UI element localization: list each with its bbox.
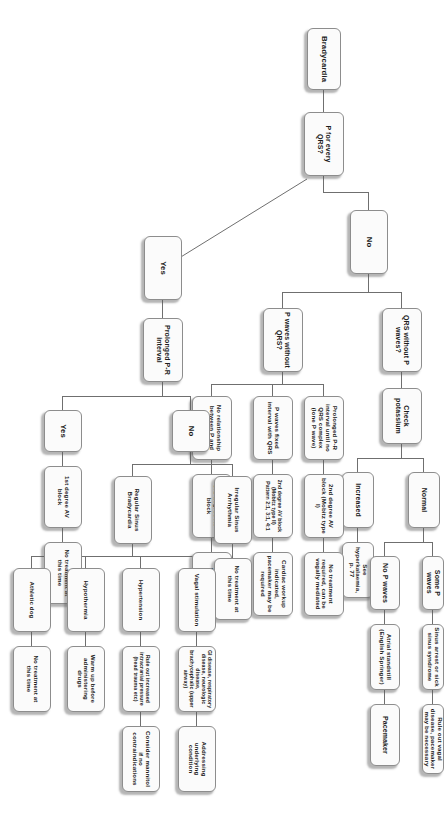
connector (63, 396, 191, 397)
connector (323, 176, 324, 192)
connector (132, 464, 133, 476)
node-1st-degree-av-block[interactable]: 1st degree AV block (44, 466, 82, 528)
connector (140, 712, 141, 726)
connector (62, 396, 63, 410)
node-hypertension[interactable]: Hypertension (122, 568, 160, 632)
node-2nd-degree-mobitz-i[interactable]: 2nd degree AV block (Mobitz type I) (304, 474, 344, 538)
node-regular-sinus-bradycardia[interactable]: Regular Sinus Bradycardia (114, 476, 152, 544)
connector (272, 538, 273, 552)
node-no-treatment-vagally-mediated[interactable]: No treatment required, can be vagally me… (304, 552, 344, 616)
node-prolonged-pr-until-no-qrs[interactable]: Prolonged P-R interval until no QRS comp… (304, 396, 344, 460)
connector (190, 396, 191, 410)
connector (323, 192, 369, 193)
connector (384, 542, 385, 556)
connector (211, 538, 212, 552)
connector (196, 632, 197, 646)
connector (432, 542, 433, 556)
connector (323, 90, 324, 112)
connector (140, 632, 141, 646)
connector (162, 300, 163, 318)
node-no-p-waves[interactable]: No P waves (370, 556, 400, 610)
connector (31, 632, 32, 646)
connector (384, 610, 385, 624)
connector (282, 372, 283, 384)
connector (282, 292, 283, 308)
node-rule-out-icp[interactable]: Rule out increased intracranial pressure… (122, 646, 160, 712)
connector (140, 556, 141, 568)
node-potassium-increased[interactable]: Increased (342, 472, 374, 528)
node-warm-up-before-drugs[interactable]: Warm up before administering drugs (67, 646, 105, 712)
node-branch-yes[interactable]: Yes (144, 236, 182, 300)
node-hypothermia[interactable]: Hypothermia (67, 568, 105, 632)
connector (423, 458, 424, 472)
connector (323, 460, 324, 474)
connector (401, 372, 402, 388)
node-atrial-standstill[interactable]: Atrial standstill (English Springer) (370, 624, 400, 690)
connector (323, 538, 324, 552)
connector (283, 292, 402, 293)
connector (432, 610, 433, 624)
connector (357, 458, 358, 472)
node-potassium-normal[interactable]: Normal (408, 472, 440, 528)
connector (133, 464, 233, 465)
connector (432, 690, 433, 704)
flowchart-canvas: Bradycardia P for every QRS? No Yes QRS … (0, 0, 444, 820)
connector (368, 192, 369, 210)
node-addressing-underlying-condition[interactable]: Addressing underlying condition (178, 726, 216, 792)
connector (85, 632, 86, 646)
connector (357, 528, 358, 542)
connector (232, 464, 233, 476)
node-irregular-sinus-arrhythmia[interactable]: Irregular Sinus Arrhythmia (214, 476, 252, 544)
node-check-potassium[interactable]: Check potassium (382, 388, 422, 444)
connector (196, 712, 197, 726)
node-cardiac-workup[interactable]: Cardiac workup indicated, pacemaker may … (253, 552, 293, 616)
node-qrs-without-p-waves[interactable]: QRS without P waves? (382, 308, 422, 372)
node-sinus-arrest[interactable]: Sinus arrest or sick sinus syndrome (422, 624, 444, 690)
connector (423, 528, 424, 542)
connector (401, 292, 402, 308)
node-athletic-dog[interactable]: Athletic dog (13, 568, 51, 632)
connector (211, 460, 212, 474)
connector (384, 690, 385, 704)
connector (272, 384, 273, 396)
connector (232, 544, 233, 558)
node-p-for-every-qrs[interactable]: P for every QRS? (304, 112, 344, 176)
connector (85, 556, 86, 568)
node-consider-mannitol[interactable]: Consider mannitol if no contraindication… (122, 726, 160, 792)
node-2nd-degree-mobitz-ii[interactable]: 2nd degree AV block (Mobitz type II) Pat… (253, 474, 293, 538)
node-pr-no[interactable]: No (172, 410, 210, 452)
connector (368, 274, 369, 292)
connector (162, 382, 163, 396)
node-no-treatment-3[interactable]: No treatment at this time (13, 646, 51, 712)
connector (401, 444, 402, 458)
connector (31, 556, 32, 568)
node-rule-out-vagal[interactable]: Rule out vagal disease, pacemaker may be… (422, 704, 444, 774)
node-pr-yes[interactable]: Yes (44, 410, 82, 452)
node-branch-no[interactable]: No (350, 210, 388, 274)
connector (358, 458, 424, 459)
node-p-waves-fixed-interval[interactable]: P waves fixed interval with QRS (253, 396, 293, 460)
connector (272, 460, 273, 474)
node-vagal-stimulation[interactable]: Vagal stimulation (178, 568, 216, 632)
node-pacemaker[interactable]: Pacemaker (370, 704, 400, 766)
connector (211, 384, 212, 396)
node-bradycardia[interactable]: Bradycardia (307, 28, 341, 90)
node-some-p-waves[interactable]: Some P waves (422, 556, 444, 610)
node-prolonged-pr-interval[interactable]: Prolonged P-R interval (143, 318, 183, 382)
connector (62, 452, 63, 466)
connector (132, 544, 133, 556)
node-gi-disease[interactable]: GI disease, respiratory disease, neurolo… (178, 646, 216, 712)
connector (190, 452, 191, 464)
connector (323, 384, 324, 396)
connector (212, 384, 324, 385)
node-no-treatment-2[interactable]: No treatment at this time (214, 558, 252, 620)
connector (62, 528, 63, 542)
node-p-waves-without-qrs[interactable]: P waves without QRS? (263, 308, 303, 372)
connector (385, 542, 433, 543)
